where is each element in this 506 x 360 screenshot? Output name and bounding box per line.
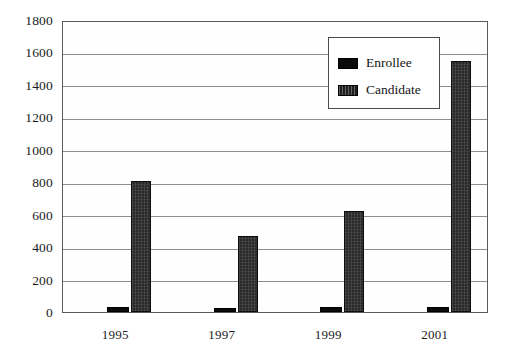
legend-item-candidate: Candidate (338, 83, 421, 97)
gridline (63, 249, 487, 250)
y-axis-tick-label: 1400 (0, 79, 53, 93)
y-axis-tick-label: 1800 (0, 14, 53, 28)
bar-candidate-1999 (344, 211, 364, 312)
gridline (63, 151, 487, 152)
legend-swatch-enrollee (338, 58, 358, 69)
gridline (63, 281, 487, 282)
bar-enrollee-1997 (214, 308, 236, 312)
legend-label-candidate: Candidate (366, 83, 421, 97)
bar-chart: 020040060080010001200140016001800 199519… (0, 0, 506, 360)
gridline (63, 216, 487, 217)
y-axis-tick-label: 1000 (0, 144, 53, 158)
y-axis-tick-label: 600 (0, 209, 53, 223)
y-axis-tick-label: 200 (0, 274, 53, 288)
bar-enrollee-2001 (427, 307, 449, 312)
x-axis-tick-label-1995: 1995 (62, 328, 169, 341)
y-axis-tick-label: 1200 (0, 111, 53, 125)
bar-candidate-1997 (238, 236, 258, 312)
x-axis-tick-label-1997: 1997 (169, 328, 276, 341)
y-axis-tick-label: 0 (0, 306, 53, 320)
y-axis-tick-label: 1600 (0, 46, 53, 60)
gridline (63, 184, 487, 185)
bar-candidate-2001 (451, 61, 471, 312)
legend-item-enrollee: Enrollee (338, 56, 412, 70)
legend-label-enrollee: Enrollee (366, 56, 412, 70)
bar-candidate-1995 (131, 181, 151, 312)
y-axis-tick-label: 800 (0, 176, 53, 190)
bar-enrollee-1995 (107, 307, 129, 312)
gridline (63, 119, 487, 120)
chart-legend: Enrollee Candidate (328, 37, 440, 109)
x-axis-tick-label-1999: 1999 (275, 328, 382, 341)
legend-swatch-candidate (338, 85, 358, 96)
x-axis-tick-label-2001: 2001 (382, 328, 489, 341)
y-axis-tick-label: 400 (0, 241, 53, 255)
bar-enrollee-1999 (320, 307, 342, 312)
